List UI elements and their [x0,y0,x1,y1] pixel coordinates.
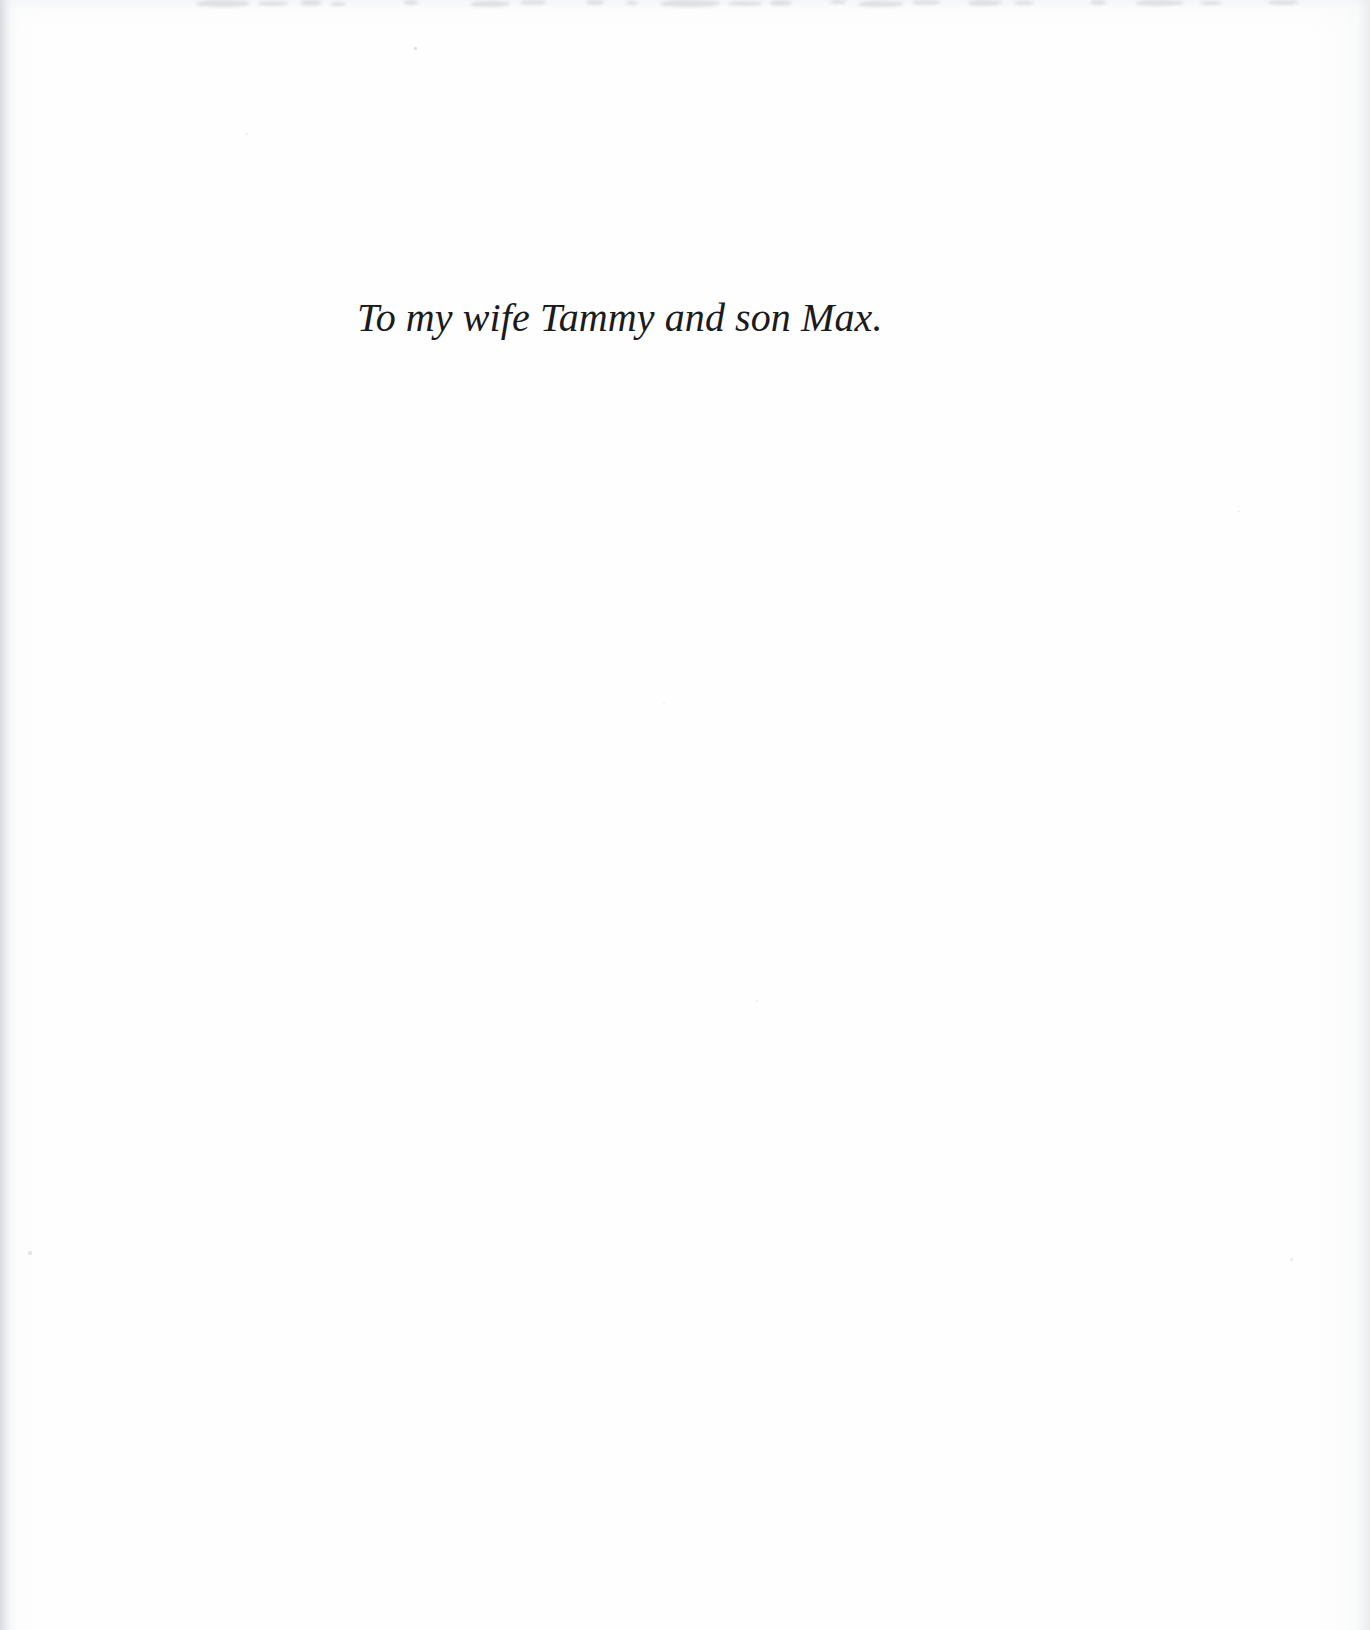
scan-smudge [300,0,322,6]
scan-smudge [404,0,418,5]
scan-smudge [858,1,904,7]
scan-speck [414,47,417,50]
scan-smudge [1136,0,1184,6]
scan-smudge [470,1,510,7]
scan-speck [663,702,665,704]
left-edge-scan-band [0,0,16,1630]
scan-smudge [586,0,604,5]
scan-smudge [330,2,346,6]
dedication-text: To my wife Tammy and son Max. [357,294,1057,341]
scan-smudge [1268,0,1298,5]
scan-speck [246,133,248,135]
scan-smudge [968,0,1002,6]
scan-speck [1290,1258,1293,1261]
top-edge-scan-smudges [0,0,1370,16]
scan-smudge [1014,1,1034,5]
scan-smudge [196,0,250,7]
scan-speck [756,1000,758,1002]
right-edge-scan-band [1344,0,1370,1630]
scan-smudge [1200,1,1222,5]
scan-speck [28,1251,32,1255]
scan-tone-overlay [0,0,1370,1630]
scan-smudge [770,0,792,6]
scan-smudge [626,1,638,5]
scan-smudge [912,0,940,5]
scan-smudge [728,1,762,6]
scan-smudge [258,1,288,6]
scan-smudge [660,0,720,7]
scan-smudge [1090,0,1106,5]
dedication-page: To my wife Tammy and son Max. [0,0,1370,1630]
scan-smudge [520,0,546,5]
scan-smudge [830,0,846,4]
scan-speck [1238,510,1240,512]
